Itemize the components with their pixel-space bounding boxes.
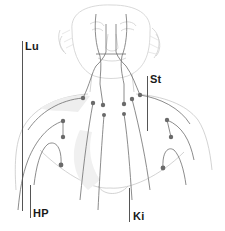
- acupoint: [169, 135, 173, 139]
- acupoint: [59, 163, 64, 168]
- acupoint: [101, 103, 105, 107]
- acupoint: [61, 135, 65, 139]
- label-st: St: [150, 74, 161, 85]
- hp-leader-line: [30, 185, 31, 218]
- hair-sketch: [62, 30, 158, 54]
- acupoint: [130, 97, 134, 101]
- head-sketch: [59, 5, 160, 79]
- label-hp: HP: [33, 208, 49, 219]
- acupoint: [161, 166, 166, 171]
- acupoint: [122, 102, 126, 106]
- acupoint: [138, 93, 142, 97]
- acupoint: [61, 119, 65, 123]
- acupoint: [81, 96, 85, 100]
- acupoint: [91, 101, 95, 105]
- acupoint: [102, 113, 106, 117]
- label-ki: Ki: [133, 211, 144, 222]
- meridian-diagram: [0, 0, 225, 231]
- acupoint: [122, 112, 126, 116]
- st-leader-line: [147, 76, 148, 131]
- label-lu: Lu: [25, 41, 39, 52]
- acupoint: [165, 118, 169, 122]
- lu-leader-line: [22, 41, 23, 211]
- meridian-lines: [18, 14, 194, 210]
- torso-sketch: [15, 74, 212, 194]
- ki-leader-line: [129, 188, 130, 222]
